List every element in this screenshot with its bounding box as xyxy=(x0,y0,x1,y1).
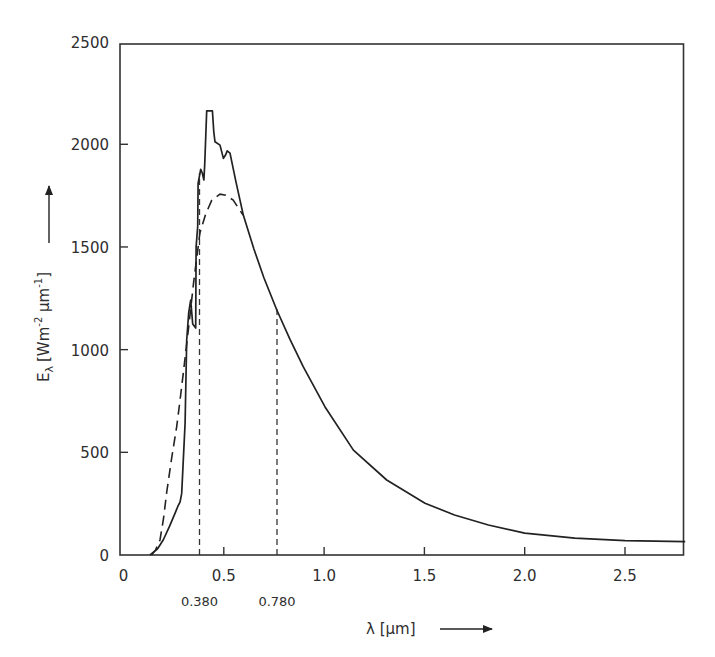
x-tick-label: 2.5 xyxy=(613,567,637,585)
y-title-close: ] xyxy=(35,272,53,278)
marker-label: 0.780 xyxy=(258,594,295,609)
x-axis-ticks: 00.51.01.52.02.5 xyxy=(119,547,637,585)
y-tick-label: 500 xyxy=(80,444,109,462)
marker-label: 0.380 xyxy=(181,594,218,609)
y-title-exp2: -1 xyxy=(33,278,44,288)
svg-text:Eλ[Wm-2 µm-1]: Eλ[Wm-2 µm-1] xyxy=(33,272,56,382)
y-tick-label: 0 xyxy=(99,547,109,565)
x-tick-label: 0 xyxy=(119,567,129,585)
spectral-irradiance-chart: 00.51.01.52.02.5 05001000150020002500 0.… xyxy=(0,0,715,657)
y-title-units: [Wm xyxy=(35,327,53,362)
measured-solid-curve xyxy=(150,111,685,555)
plot-frame xyxy=(120,44,684,555)
y-tick-label: 1500 xyxy=(71,239,109,257)
y-axis-title: Eλ[Wm-2 µm-1] xyxy=(33,272,56,382)
x-tick-label: 2.0 xyxy=(513,567,537,585)
y-title-exp1: -2 xyxy=(33,317,44,327)
y-tick-label: 2000 xyxy=(71,136,109,154)
x-tick-label: 1.5 xyxy=(412,567,436,585)
y-title-lambda-subscript: λ xyxy=(43,366,56,373)
wavelength-markers: 0.3800.780 xyxy=(181,173,296,609)
y-tick-label: 2500 xyxy=(71,34,109,52)
x-tick-label: 0.5 xyxy=(212,567,236,585)
blackbody-dashed-curve xyxy=(152,194,244,555)
x-axis-title: λ [µm] xyxy=(366,620,416,638)
x-tick-label: 1.0 xyxy=(312,567,336,585)
y-title-mid: µm xyxy=(35,288,53,317)
y-title-E: E xyxy=(35,373,53,382)
y-tick-label: 1000 xyxy=(71,342,109,360)
